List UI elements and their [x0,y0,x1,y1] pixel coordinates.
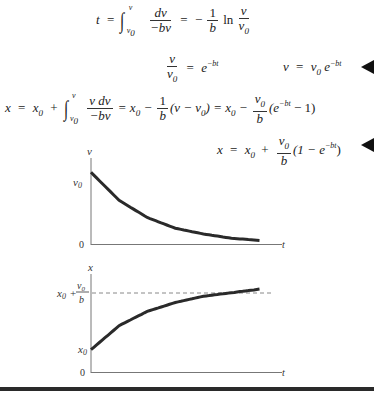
svg-text:x0: x0 [56,287,66,301]
svg-text:+: + [70,287,76,299]
section-divider [0,387,374,391]
svg-text:v0: v0 [77,280,85,293]
svg-text:b: b [79,294,84,305]
x-tick-zero: 0 [80,367,85,378]
x-tick-asymptote: x0 + v0 b [56,280,89,305]
x-axis-label: x [87,261,93,273]
x-tick-x0: x0 [77,343,87,357]
x-t-axis-label: t [282,367,285,378]
x-growth-curve [91,289,260,350]
position-time-graph: x t 0 x0 x0 + v0 b [0,0,380,394]
